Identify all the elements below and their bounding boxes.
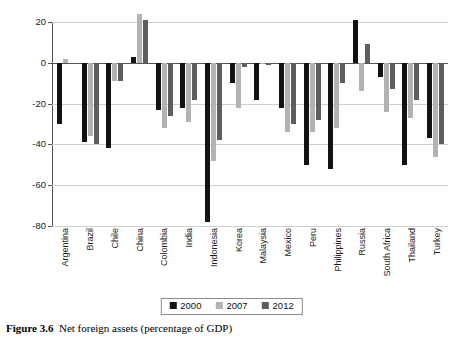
bar-slot — [106, 22, 111, 226]
legend-swatch-icon — [215, 302, 222, 309]
bar — [310, 63, 315, 132]
bar-slot — [168, 22, 173, 226]
bar-group — [226, 22, 251, 226]
x-axis-label: China — [135, 228, 144, 252]
bar — [131, 57, 136, 63]
bar-group — [127, 22, 152, 226]
bar-slot — [180, 22, 185, 226]
bar — [242, 63, 247, 67]
x-axis-label-cell: Indonesia — [202, 228, 227, 302]
bar-group — [300, 22, 325, 226]
bar — [63, 59, 68, 63]
bar — [359, 63, 364, 92]
legend-label: 2000 — [180, 301, 201, 311]
x-axis-label-cell: Brazil — [78, 228, 103, 302]
bar-slot — [365, 22, 370, 226]
bar-slot — [57, 22, 62, 226]
x-axis-label: Malaysia — [259, 228, 268, 264]
legend-swatch-icon — [262, 302, 269, 309]
bar — [439, 63, 444, 145]
bar — [279, 63, 284, 108]
x-axis-label: Chile — [110, 228, 119, 249]
bar-slot — [384, 22, 389, 226]
bar — [328, 63, 333, 169]
gridline — [52, 226, 448, 227]
bar-slot — [285, 22, 290, 226]
bar-slot — [414, 22, 419, 226]
bar-slot — [82, 22, 87, 226]
x-axis-label-cell: Malaysia — [251, 228, 276, 302]
x-axis-label: Brazil — [86, 228, 95, 251]
legend-item: 2007 — [215, 301, 247, 311]
bar-slot — [402, 22, 407, 226]
bar-slot — [390, 22, 395, 226]
bar — [260, 63, 265, 64]
bar — [427, 63, 432, 138]
figure-number: Figure 3.6 — [6, 322, 53, 334]
bar-group — [78, 22, 103, 226]
bar-slot — [131, 22, 136, 226]
x-axis-label-cell: Thailand — [400, 228, 425, 302]
x-axis-label-cell: Mexico — [276, 228, 301, 302]
bar-slot — [310, 22, 315, 226]
bar-group — [423, 22, 448, 226]
bar — [94, 63, 99, 145]
bar-slot — [427, 22, 432, 226]
bar — [180, 63, 185, 108]
x-axis-label-cell: Colombia — [152, 228, 177, 302]
bar-group — [176, 22, 201, 226]
bar-slot — [433, 22, 438, 226]
bar — [353, 20, 358, 63]
bar — [266, 63, 271, 65]
x-axis-label-cell: South Africa — [375, 228, 400, 302]
bar-slot — [291, 22, 296, 226]
x-axis-label: Colombia — [160, 228, 169, 266]
bar — [205, 63, 210, 222]
legend-label: 2007 — [226, 301, 247, 311]
bar-slot — [192, 22, 197, 226]
bar — [82, 63, 87, 143]
bar-slot — [118, 22, 123, 226]
bar-group — [53, 22, 78, 226]
y-axis-tick-mark — [48, 144, 52, 145]
bar-slot — [304, 22, 309, 226]
bar — [186, 63, 191, 122]
x-axis-label-cell: Russia — [350, 228, 375, 302]
bar — [365, 44, 370, 62]
bar — [143, 20, 148, 63]
bar-slot — [359, 22, 364, 226]
bar — [168, 63, 173, 116]
bar — [390, 63, 395, 90]
bar-slot — [334, 22, 339, 226]
bar — [340, 63, 345, 83]
bar — [285, 63, 290, 132]
bar — [88, 63, 93, 136]
bar-group — [152, 22, 177, 226]
y-axis-tick-mark — [48, 104, 52, 105]
bar-slot — [439, 22, 444, 226]
chart-legend: 200020072012 — [160, 298, 302, 315]
bar-group — [349, 22, 374, 226]
bar-slot — [260, 22, 265, 226]
x-axis-label: Peru — [308, 228, 317, 247]
x-axis-label: Philippines — [333, 228, 342, 272]
bar — [211, 63, 216, 161]
bar — [291, 63, 296, 124]
bar — [304, 63, 309, 165]
plot-area: 200-20-40-60-80 — [52, 22, 448, 226]
bar — [162, 63, 167, 128]
bar-slot — [211, 22, 216, 226]
x-axis-label-cell: Argentina — [53, 228, 78, 302]
x-axis-label: Russia — [358, 228, 367, 256]
bar-slot — [316, 22, 321, 226]
bar — [230, 63, 235, 83]
bar-slot — [137, 22, 142, 226]
bar — [57, 63, 62, 124]
bar-slot — [217, 22, 222, 226]
bar-slot — [88, 22, 93, 226]
y-axis-tick-mark — [48, 22, 52, 23]
bar-slot — [242, 22, 247, 226]
bar-slot — [328, 22, 333, 226]
bar — [408, 63, 413, 118]
bar-group — [325, 22, 350, 226]
